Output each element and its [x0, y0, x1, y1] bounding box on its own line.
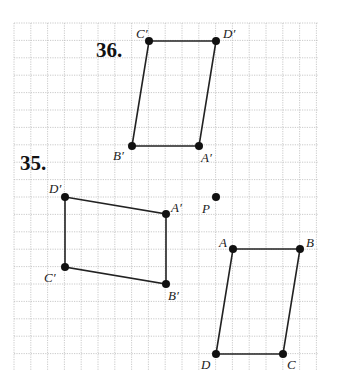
vertex-label: B′ — [113, 148, 124, 163]
center-label: P — [201, 201, 210, 216]
vertex-label: C — [287, 357, 296, 372]
grid — [14, 23, 318, 370]
vertex-point — [279, 350, 287, 358]
vertex-label: C′ — [44, 270, 56, 285]
vertex-point — [212, 37, 220, 45]
vertex-point — [296, 245, 304, 253]
image-parallelogram — [65, 197, 166, 284]
vertex-point — [162, 210, 170, 218]
center-point — [212, 193, 220, 201]
vertex-label: C′ — [136, 26, 148, 41]
vertex-point — [61, 193, 69, 201]
vertex-label: B′ — [168, 288, 179, 303]
vertex-label: A′ — [170, 200, 182, 215]
vertex-point — [195, 142, 203, 150]
image-parallelogram — [132, 41, 216, 146]
vertex-point — [162, 280, 170, 288]
vertex-label: A′ — [200, 150, 212, 165]
vertex-label: B — [306, 235, 314, 250]
vertex-label: D′ — [222, 26, 235, 41]
vertex-label: D — [200, 357, 211, 372]
vertex-point — [212, 350, 220, 358]
shapes — [61, 37, 304, 358]
vertex-point — [229, 245, 237, 253]
transformation-diagram: C′D′A′B′36.D′A′B′C′35.ABCDP — [0, 0, 337, 391]
problem-number: 36. — [96, 38, 122, 62]
vertex-label: D′ — [48, 181, 61, 196]
vertex-point — [128, 142, 136, 150]
vertex-point — [61, 263, 69, 271]
vertex-label: A — [218, 235, 227, 250]
problem-number: 35. — [20, 151, 46, 175]
